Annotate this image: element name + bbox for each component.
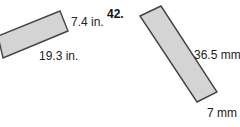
right-long-side-label: 36.5 mm [194,48,240,62]
left-long-side-label: 19.3 in. [39,49,78,63]
problem-number: 42. [107,7,124,21]
left-short-side-label: 7.4 in. [71,15,104,29]
right-short-side-label: 7 mm [207,106,237,120]
